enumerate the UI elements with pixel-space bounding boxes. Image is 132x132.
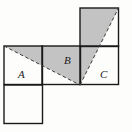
figure-canvas: [0, 0, 132, 132]
label-a: A: [18, 69, 25, 80]
geometric-figure: A B C: [0, 0, 132, 132]
label-c: C: [100, 69, 107, 80]
square-below-A: [4, 85, 43, 124]
label-b: B: [64, 55, 71, 66]
